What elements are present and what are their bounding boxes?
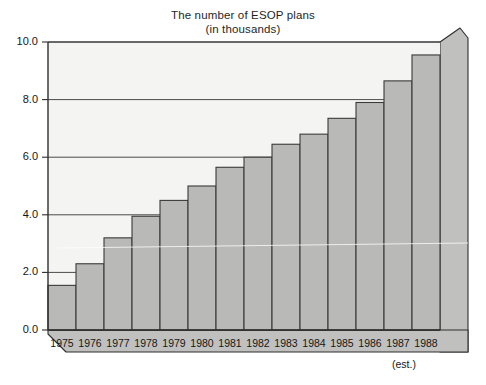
bar-1984[interactable]	[300, 134, 328, 330]
est-annotation: (est.)	[392, 358, 416, 370]
bar-1988[interactable]	[412, 55, 440, 330]
y-tick-label-6.0: 6.0	[2, 151, 38, 162]
esop-bar-chart: The number of ESOP plans (in thousands) …	[0, 0, 486, 385]
bar-1976[interactable]	[76, 264, 104, 330]
x-tick-label-1988: 1988	[409, 338, 443, 349]
bar-1982[interactable]	[244, 157, 272, 330]
bar-1981[interactable]	[216, 167, 244, 330]
y-tick-label-2.0: 2.0	[2, 266, 38, 277]
y-tick-label-8.0: 8.0	[2, 94, 38, 105]
y-tick-label-0.0: 0.0	[2, 324, 38, 335]
bar-1985[interactable]	[328, 118, 356, 330]
bar-1980[interactable]	[188, 186, 216, 330]
bar-1979[interactable]	[160, 200, 188, 330]
bar-1983[interactable]	[272, 144, 300, 330]
bar-1977[interactable]	[104, 238, 132, 330]
bar-1987[interactable]	[384, 81, 412, 330]
bar-1975[interactable]	[48, 285, 76, 330]
plot-canvas	[0, 0, 486, 385]
y-tick-label-10.0: 10.0	[2, 36, 38, 47]
bar-1986[interactable]	[356, 102, 384, 330]
plot-3d-side-panel	[440, 28, 468, 352]
y-tick-label-4.0: 4.0	[2, 209, 38, 220]
bar-1978[interactable]	[132, 216, 160, 330]
